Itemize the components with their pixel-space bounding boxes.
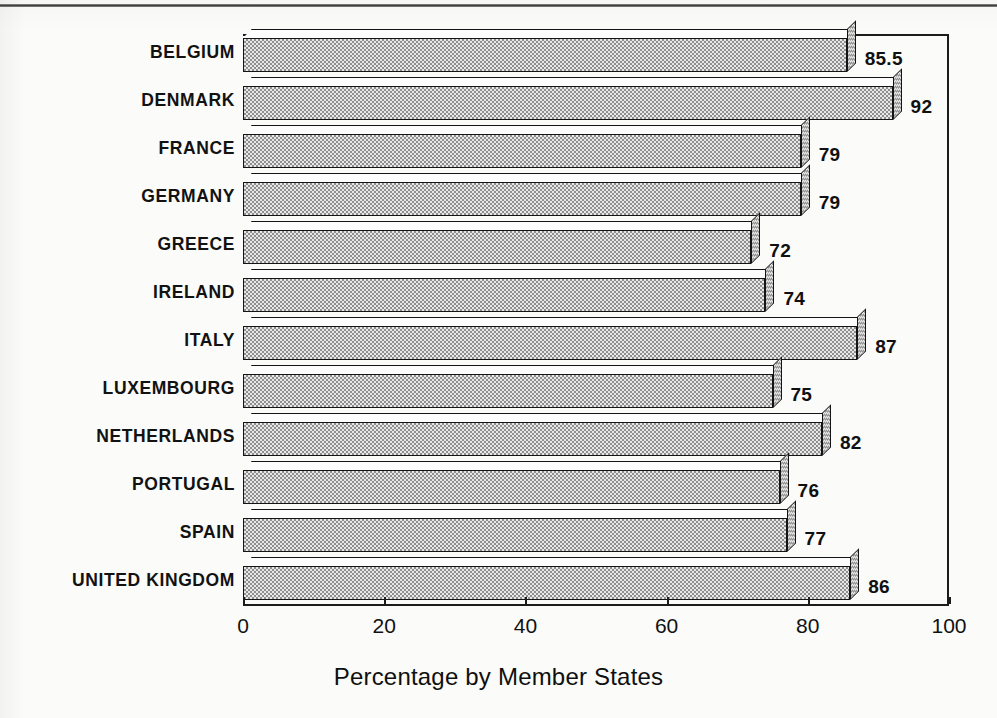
bar-top-face	[243, 29, 855, 38]
bar-row: BELGIUM85.5	[0, 28, 997, 76]
bar	[243, 38, 847, 72]
bar-value-label: 75	[791, 384, 813, 406]
bar-top-face	[243, 269, 774, 278]
x-tick-label: 20	[373, 614, 396, 638]
bar-top-face	[243, 509, 795, 518]
bar-front-face	[243, 38, 847, 72]
bar-value-label: 72	[769, 240, 791, 262]
scanned-page: BELGIUM85.5DENMARK92FRANCE79GERMANY79GRE…	[0, 0, 997, 718]
x-tick-label: 0	[237, 614, 249, 638]
bar-front-face	[243, 182, 801, 216]
bar-value-label: 87	[875, 336, 897, 358]
bar-top-face	[243, 173, 809, 182]
bar	[243, 134, 801, 168]
bar-row: UNITED KINGDOM86	[0, 556, 997, 604]
bar-front-face	[243, 326, 857, 360]
category-label: SPAIN	[180, 522, 235, 543]
bar-chart: BELGIUM85.5DENMARK92FRANCE79GERMANY79GRE…	[0, 0, 997, 718]
bar-front-face	[243, 374, 773, 408]
bar-value-label: 92	[911, 96, 933, 118]
x-tick-mark	[808, 597, 810, 604]
bar	[243, 422, 822, 456]
bar-end-face	[780, 452, 789, 504]
bar-end-face	[765, 260, 774, 312]
bar-end-face	[801, 164, 810, 216]
category-label: NETHERLANDS	[96, 426, 235, 447]
category-label: PORTUGAL	[132, 474, 235, 495]
bar	[243, 566, 850, 600]
category-label: UNITED KINGDOM	[72, 570, 235, 591]
bar-value-label: 85.5	[865, 48, 903, 70]
bar-row: LUXEMBOURG75	[0, 364, 997, 412]
bar-rows: BELGIUM85.5DENMARK92FRANCE79GERMANY79GRE…	[0, 28, 997, 604]
bar-end-face	[857, 308, 866, 360]
bar-end-face	[893, 68, 902, 120]
bar-front-face	[243, 518, 787, 552]
x-tick-label: 40	[514, 614, 537, 638]
bar-row: DENMARK92	[0, 76, 997, 124]
bar-row: GERMANY79	[0, 172, 997, 220]
x-tick-label: 60	[655, 614, 678, 638]
x-tick-mark	[667, 597, 669, 604]
bar-front-face	[243, 422, 822, 456]
bar-top-face	[243, 125, 809, 134]
category-label: BELGIUM	[150, 42, 235, 63]
category-label: LUXEMBOURG	[103, 378, 235, 399]
bar-top-face	[243, 221, 760, 230]
bar-front-face	[243, 470, 780, 504]
bar	[243, 86, 893, 120]
bar	[243, 374, 773, 408]
category-label: ITALY	[184, 330, 235, 351]
x-tick-mark	[243, 597, 245, 604]
x-tick-mark	[384, 597, 386, 604]
bar	[243, 230, 751, 264]
bar-top-face	[243, 461, 788, 470]
bar	[243, 518, 787, 552]
bar-top-face	[243, 557, 859, 566]
bar-end-face	[751, 212, 760, 264]
bar-value-label: 82	[840, 432, 862, 454]
bar-front-face	[243, 86, 893, 120]
bar	[243, 182, 801, 216]
category-label: DENMARK	[141, 90, 235, 111]
bar-value-label: 79	[819, 192, 841, 214]
category-label: FRANCE	[158, 138, 235, 159]
x-tick-mark	[949, 597, 951, 604]
x-tick-label: 100	[931, 614, 966, 638]
bar-row: SPAIN77	[0, 508, 997, 556]
bar-value-label: 86	[868, 576, 890, 598]
bar-front-face	[243, 278, 765, 312]
bar	[243, 470, 780, 504]
bar-top-face	[243, 365, 781, 374]
bar-value-label: 77	[805, 528, 827, 550]
category-label: IRELAND	[153, 282, 235, 303]
bar-row: GREECE72	[0, 220, 997, 268]
bar-row: ITALY87	[0, 316, 997, 364]
bar-top-face	[243, 413, 831, 422]
x-tick-mark	[525, 597, 527, 604]
bar-value-label: 79	[819, 144, 841, 166]
bar-top-face	[243, 317, 866, 326]
bar-end-face	[773, 356, 782, 408]
bar-end-face	[847, 20, 856, 72]
bar-front-face	[243, 134, 801, 168]
x-tick-label: 80	[796, 614, 819, 638]
bar-top-face	[243, 77, 901, 86]
bar-end-face	[850, 548, 859, 600]
category-label: GERMANY	[141, 186, 235, 207]
bar-row: PORTUGAL76	[0, 460, 997, 508]
bar-front-face	[243, 566, 850, 600]
bar-row: IRELAND74	[0, 268, 997, 316]
bar	[243, 278, 765, 312]
bar	[243, 326, 857, 360]
category-label: GREECE	[157, 234, 235, 255]
bar-front-face	[243, 230, 751, 264]
bar-end-face	[822, 404, 831, 456]
bar-value-label: 76	[798, 480, 820, 502]
bar-row: NETHERLANDS82	[0, 412, 997, 460]
bar-row: FRANCE79	[0, 124, 997, 172]
bar-value-label: 74	[783, 288, 805, 310]
x-axis-title: Percentage by Member States	[0, 663, 997, 691]
bar-end-face	[787, 500, 796, 552]
bar-end-face	[801, 116, 810, 168]
